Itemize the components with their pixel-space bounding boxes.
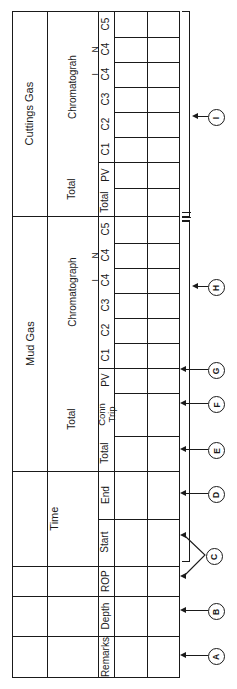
row-rule — [98, 162, 179, 163]
row-label-ic4: C4 — [98, 62, 114, 87]
row-label-c5: C5 — [98, 216, 114, 243]
row-rule — [114, 293, 179, 294]
row-sup-i: I — [87, 62, 103, 87]
row-label-conn-trip: Conn Trip — [98, 393, 114, 436]
callout-marker-i[interactable]: I — [208, 109, 225, 126]
callout-marker-g[interactable]: G — [208, 362, 225, 379]
form-sheet: Cuttings Gas Mud Gas Time Chromatograh T… — [0, 0, 237, 689]
callout-marker-f[interactable]: F — [208, 396, 225, 413]
callout-leader-b — [185, 610, 208, 611]
break-tick-lower — [182, 217, 191, 218]
row-rule — [114, 112, 179, 113]
group-rule-depth — [13, 636, 179, 637]
group-rule-time — [13, 566, 179, 567]
row-sup-n: N — [87, 37, 103, 62]
callout-leader-f — [185, 403, 208, 404]
row-label-c5: C5 — [98, 12, 114, 37]
row-label-end: End — [98, 471, 114, 519]
callout-marker-h[interactable]: H — [208, 279, 225, 296]
row-sup-i: I — [87, 268, 103, 293]
bracket-cuttings-gas — [182, 11, 190, 217]
bracket-mud-gas — [182, 220, 190, 562]
row-label-start: Start — [98, 519, 114, 566]
row-label-c2: C2 — [98, 112, 114, 137]
row-rule — [114, 393, 179, 394]
row-rule — [98, 519, 179, 520]
callout-leader-i — [197, 116, 208, 117]
row-rule — [114, 268, 179, 269]
row-rule — [114, 62, 179, 63]
row-label-nc4: C4 — [98, 37, 114, 62]
row-label-total: Total — [98, 188, 114, 216]
subgroup-label-chromatograph-cuttings: Chromatograh — [47, 12, 98, 162]
row-rule — [114, 137, 179, 138]
row-label-nc4: C4 — [98, 243, 114, 268]
row-label-pv: PV — [98, 368, 114, 393]
data-table: Cuttings Gas Mud Gas Time Chromatograh T… — [12, 11, 180, 678]
callout-leader-g — [185, 369, 208, 370]
row-rule — [114, 37, 179, 38]
group-label-mud-gas: Mud Gas — [13, 216, 47, 471]
group-label-time: Time — [13, 471, 98, 566]
row-rule — [114, 87, 179, 88]
callout-marker-d[interactable]: D — [208, 486, 225, 503]
callout-marker-e[interactable]: E — [208, 442, 225, 459]
row-label-depth: Depth — [98, 596, 114, 636]
callout-leader-h — [197, 286, 208, 287]
callout-marker-b[interactable]: B — [208, 603, 225, 620]
callout-leader-d — [185, 493, 208, 494]
row-rule — [114, 188, 179, 189]
row-label-ic4: C4 — [98, 268, 114, 293]
subgroup-label-total-mud: Total — [47, 368, 98, 471]
group-rule-cuttings-gas — [13, 216, 179, 217]
callout-leader-e — [185, 449, 208, 450]
break-tick-upper — [182, 212, 191, 213]
row-label-c1: C1 — [98, 137, 114, 162]
subgroup-label-chromatograph-mud: Chromatograph — [47, 216, 98, 368]
row-label-c3: C3 — [98, 87, 114, 112]
row-label-c3: C3 — [98, 293, 114, 318]
callout-marker-a[interactable]: A — [208, 648, 225, 665]
column-rule-subgroup — [98, 12, 99, 677]
row-label-pv: PV — [98, 162, 114, 188]
callout-leader-a — [185, 655, 208, 656]
row-rule — [114, 318, 179, 319]
subgroup-label-total-cuttings: Total — [47, 162, 98, 216]
group-label-cuttings-gas: Cuttings Gas — [13, 12, 47, 216]
row-label-rop: ROP — [98, 566, 114, 596]
column-rule-group — [47, 12, 48, 677]
row-rule — [114, 243, 179, 244]
group-rule-mud-gas — [13, 471, 179, 472]
callout-marker-c[interactable]: C — [206, 548, 223, 565]
row-sup-n: N — [87, 243, 103, 268]
row-label-c2: C2 — [98, 318, 114, 343]
row-label-remarks: Remarks — [98, 636, 114, 679]
row-label-c1: C1 — [98, 343, 114, 368]
group-rule-rop — [13, 596, 179, 597]
row-rule — [98, 368, 179, 369]
row-label-total: Total — [98, 436, 114, 471]
row-rule — [114, 436, 179, 437]
row-rule — [114, 343, 179, 344]
